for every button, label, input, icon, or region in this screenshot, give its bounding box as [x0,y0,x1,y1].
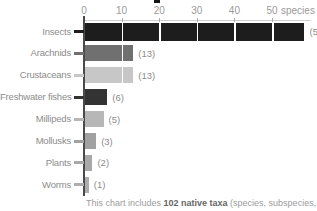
category-label: Millipeds [0,113,71,124]
category-tick-dash [74,140,84,143]
value-label: (1) [94,179,106,190]
category-tick-dash [74,30,84,33]
category-tick-dash [74,161,84,164]
gridline [122,22,124,196]
category-tick-dash [74,74,84,77]
value-label: (5) [109,114,121,125]
category-label: Arachnids [0,47,71,58]
bar-millipeds [85,111,104,127]
category-tick-dash [74,52,84,55]
x-axis-tick-label: 50 [266,5,277,16]
x-axis-tick-label: 30 [191,5,202,16]
bar-crustaceans [85,67,133,83]
x-axis-tick-label: 40 [229,5,240,16]
caption-prefix: This chart includes [86,198,164,208]
value-label: (3) [101,136,113,147]
category-label: Insects [0,26,71,37]
value-label: (59) [309,26,317,37]
caption: This chart includes 102 native taxa (spe… [86,198,317,208]
gridline [272,22,274,196]
bar-arachnids [85,45,133,61]
gridline [197,22,199,196]
category-tick-dash [74,118,84,121]
category-label: Mollusks [0,135,71,146]
caption-bold-total: 102 native taxa [164,198,228,208]
value-label: (13) [138,70,155,81]
x-axis-tick-label: 20 [154,5,165,16]
caption-suffix: (species, subspecies, [228,198,317,208]
category-label: Plants [0,157,71,168]
category-tick-dash [74,96,84,99]
category-label: Worms [0,179,71,190]
gridline [159,22,161,196]
category-label: Crustaceans [0,69,71,80]
bar-freshwater-fishes [85,89,107,105]
bar-mollusks [85,133,96,149]
gridline [234,22,236,196]
category-label: Freshwater fishes [0,91,71,102]
species-bar-chart: 01020304050 species Insects(59)Arachnids… [0,0,317,211]
axis-unit-label: species [281,5,315,16]
bar-plants [85,155,92,171]
value-label: (13) [138,48,155,59]
x-axis-tick-label: 0 [81,5,87,16]
value-label: (6) [112,92,124,103]
value-label: (2) [97,157,109,168]
x-axis-tick-label: 10 [116,5,127,16]
category-tick-dash [74,183,84,186]
cut-off-title-fragment [154,0,160,3]
bar-worms [85,177,89,193]
